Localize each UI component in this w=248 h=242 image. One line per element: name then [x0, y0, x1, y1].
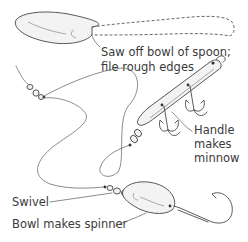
swivel-leader	[50, 193, 112, 202]
saw-cut-leader	[92, 36, 100, 47]
fishing-line-lower	[38, 98, 104, 188]
minnow-swivel	[129, 128, 143, 146]
bowl-spinner-label: Bowl makes spinner	[12, 217, 128, 231]
handle-leader	[172, 112, 192, 131]
spinner-bowl	[122, 182, 174, 214]
saw-off-label: Saw off bowl of spoon;	[101, 45, 231, 59]
makes-label: makes	[194, 137, 232, 151]
left-swivel	[16, 66, 45, 100]
spinner-rivet	[169, 205, 172, 208]
minnow-rivet-top	[211, 61, 214, 64]
single-hook	[174, 193, 232, 223]
spoon-bowl	[15, 12, 98, 44]
spoon-handle-dashed	[92, 16, 234, 36]
minnow-shading	[150, 69, 214, 118]
file-edges-label: file rough edges	[101, 60, 194, 74]
minnow-label: minnow	[194, 151, 239, 165]
fishing-line-upper	[44, 68, 138, 176]
minnow-rivet-low	[161, 104, 164, 107]
minnow-rivet-mid	[187, 84, 190, 87]
swivel-label: Swivel	[12, 195, 49, 209]
spoon	[15, 12, 234, 47]
fishing-lure-diagram: Saw off bowl of spoon; file rough edges	[0, 0, 248, 242]
handle-label: Handle	[194, 123, 235, 137]
single-hook-shank	[178, 210, 208, 222]
